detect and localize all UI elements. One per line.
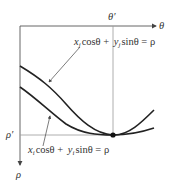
- intersection-point: [110, 132, 115, 137]
- pointer-arrow-i: [43, 116, 50, 146]
- equation-j: xjcosθ + yjsinθ = ρ: [73, 36, 155, 49]
- pointer-arrow-j: [49, 47, 80, 82]
- curve-j: [20, 66, 154, 135]
- hough-diagram: θ′ θ ρ′ ρ xjcosθ + yjsinθ = ρ xicosθ + y…: [0, 0, 175, 185]
- theta-label: θ: [159, 20, 164, 31]
- rho-prime-label: ρ′: [5, 129, 14, 140]
- rho-label: ρ: [15, 169, 21, 180]
- equation-i: xicosθ + yisinθ = ρ: [27, 144, 109, 157]
- theta-prime-label: θ′: [108, 11, 116, 22]
